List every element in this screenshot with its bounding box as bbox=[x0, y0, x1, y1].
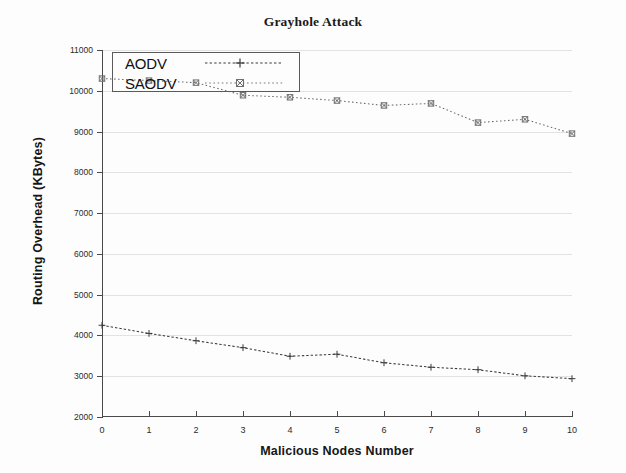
legend-sample-saodv bbox=[203, 75, 285, 91]
x-axis-label: Malicious Nodes Number bbox=[102, 444, 572, 458]
legend-item-aodv: AODV bbox=[113, 53, 299, 73]
y-tick-mark bbox=[97, 417, 103, 418]
y-tick-label: 8000 bbox=[74, 167, 93, 177]
x-tick-mark bbox=[572, 411, 573, 417]
y-tick-label: 2000 bbox=[74, 412, 93, 422]
y-tick-label: 6000 bbox=[74, 249, 93, 259]
data-point-aodv bbox=[381, 359, 388, 366]
data-point-aodv bbox=[334, 351, 341, 358]
legend-label-saodv: SAODV bbox=[125, 75, 203, 92]
x-tick-label: 9 bbox=[522, 425, 527, 435]
x-tick-label: 3 bbox=[240, 425, 245, 435]
data-point-saodv bbox=[381, 103, 386, 108]
legend-sample-aodv bbox=[203, 55, 285, 71]
y-tick-label: 10000 bbox=[69, 86, 93, 96]
data-point-saodv bbox=[99, 76, 104, 81]
x-tick-label: 8 bbox=[475, 425, 480, 435]
y-tick-label: 3000 bbox=[74, 371, 93, 381]
data-point-saodv bbox=[569, 131, 574, 136]
x-tick-label: 0 bbox=[99, 425, 104, 435]
data-point-aodv bbox=[522, 372, 529, 379]
y-axis-label: Routing Overhead (KBytes) bbox=[31, 91, 45, 351]
page-title: Grayhole Attack bbox=[0, 14, 626, 30]
data-point-aodv bbox=[287, 353, 294, 360]
x-tick-label: 7 bbox=[428, 425, 433, 435]
chart-page: Grayhole Attack Routing Overhead (KBytes… bbox=[0, 0, 626, 473]
legend-label-aodv: AODV bbox=[125, 55, 203, 72]
x-tick-label: 6 bbox=[381, 425, 386, 435]
x-tick-label: 1 bbox=[146, 425, 151, 435]
data-point-aodv bbox=[569, 375, 576, 382]
x-tick-label: 2 bbox=[193, 425, 198, 435]
data-point-saodv bbox=[334, 98, 339, 103]
x-tick-label: 4 bbox=[287, 425, 292, 435]
y-tick-label: 5000 bbox=[74, 290, 93, 300]
x-tick-label: 5 bbox=[334, 425, 339, 435]
y-tick-label: 7000 bbox=[74, 208, 93, 218]
data-point-aodv bbox=[99, 322, 106, 329]
data-point-aodv bbox=[146, 330, 153, 337]
y-tick-label: 11000 bbox=[70, 45, 93, 55]
data-point-aodv bbox=[428, 364, 435, 371]
data-point-saodv bbox=[475, 120, 480, 125]
data-point-aodv bbox=[193, 337, 200, 344]
plot-area: 2000300040005000600070008000900010000110… bbox=[102, 50, 572, 417]
legend-item-saodv: SAODV bbox=[113, 73, 299, 93]
y-tick-label: 9000 bbox=[74, 127, 93, 137]
data-point-aodv bbox=[475, 366, 482, 373]
data-point-saodv bbox=[287, 95, 292, 100]
x-tick-label: 10 bbox=[567, 425, 577, 435]
series-layer bbox=[102, 50, 572, 417]
data-point-aodv bbox=[240, 344, 247, 351]
y-tick-label: 4000 bbox=[74, 330, 93, 340]
data-point-saodv bbox=[522, 117, 527, 122]
legend: AODV SAODV bbox=[112, 52, 300, 92]
